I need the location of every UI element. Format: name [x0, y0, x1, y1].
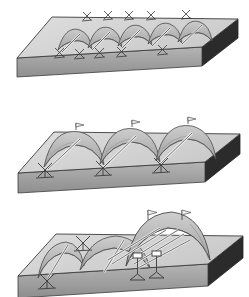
- ridge-marker-flag: [76, 123, 84, 130]
- trestle: [181, 10, 191, 19]
- vault-construction-figure: [0, 0, 249, 297]
- panel-2-drawing: [0, 99, 249, 198]
- medium-vaults-panel: [0, 99, 249, 198]
- panel-3-drawing: [0, 198, 249, 297]
- small-vaults-panel: [0, 0, 249, 99]
- ridge-marker-flag: [132, 120, 140, 127]
- panel-1-drawing: [0, 0, 249, 99]
- large-vault-panel: [0, 198, 249, 297]
- ridge-marker-flag: [188, 117, 196, 124]
